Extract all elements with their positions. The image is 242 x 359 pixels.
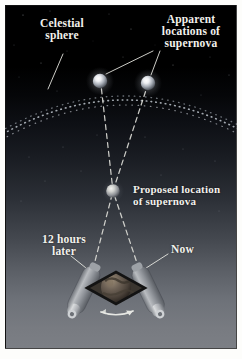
proposed-supernova <box>102 180 124 202</box>
sky-plate: Celestial sphere Apparent locations of s… <box>5 5 237 349</box>
label-celestial-sphere: Celestial sphere <box>19 17 105 41</box>
figure-frame: Celestial sphere Apparent locations of s… <box>0 0 242 359</box>
leader-now <box>143 254 168 270</box>
celestial-sphere-arc <box>5 96 237 146</box>
diagram-canvas <box>5 5 237 349</box>
sightlines <box>93 85 147 269</box>
label-now: Now <box>171 243 219 255</box>
label-apparent-locations: Apparent locations of supernova <box>145 13 237 49</box>
leader-celestial-sphere <box>48 54 63 89</box>
label-proposed-location: Proposed location of supernova <box>133 183 237 208</box>
label-12-hours-later: 12 hours later <box>27 233 101 257</box>
apparent-supernova-right <box>134 69 162 97</box>
sightline-right-to-left-star <box>101 85 139 269</box>
sightline-left-to-right-star <box>93 87 147 269</box>
apparent-supernova-left <box>86 67 114 95</box>
earth-rotation-arrow <box>101 309 133 316</box>
